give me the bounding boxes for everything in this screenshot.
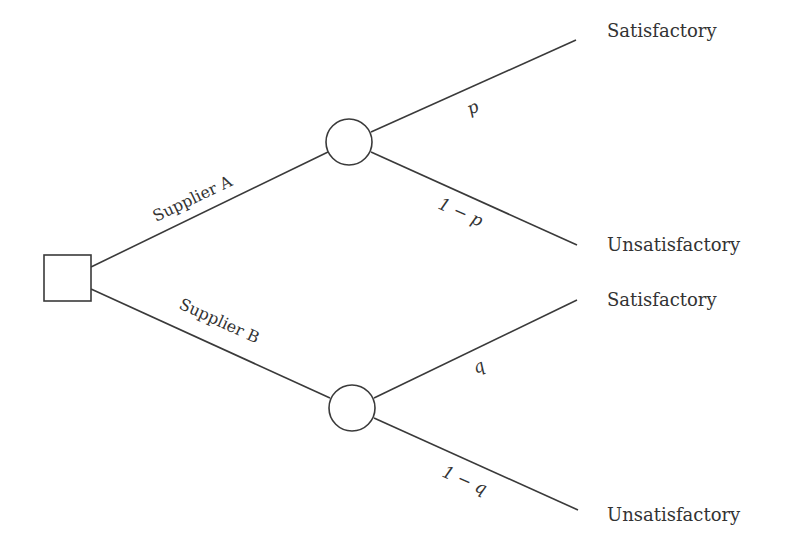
outcome-a-unsatisfactory: Unsatisfactory — [607, 234, 741, 255]
prob-label-q: q — [469, 355, 487, 378]
prob-label-p: p — [463, 96, 481, 119]
decision-node-square — [44, 255, 91, 301]
edge-b-unsatisfactory — [374, 418, 578, 510]
decision-tree-diagram: Supplier A Supplier B p 1 − p q 1 − q Sa… — [0, 0, 804, 560]
branch-label-supplier-b: Supplier B — [176, 294, 262, 347]
edge-b-satisfactory — [374, 300, 577, 398]
chance-node-b — [329, 385, 375, 431]
chance-node-a — [326, 119, 372, 165]
prob-label-1-minus-p: 1 − p — [435, 193, 486, 230]
edge-a-unsatisfactory — [371, 152, 577, 245]
edge-supplier-a — [91, 152, 328, 267]
outcome-b-satisfactory: Satisfactory — [607, 289, 717, 310]
edge-a-satisfactory — [371, 40, 576, 132]
outcome-a-satisfactory: Satisfactory — [607, 20, 717, 41]
outcome-b-unsatisfactory: Unsatisfactory — [607, 504, 741, 525]
